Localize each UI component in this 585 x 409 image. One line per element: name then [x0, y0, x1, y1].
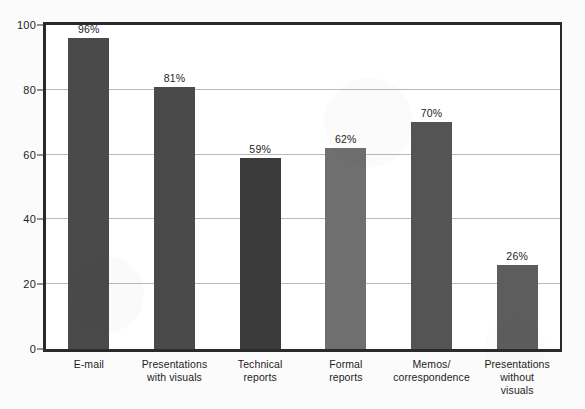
x-axis-label-line: reports	[298, 371, 394, 384]
x-axis-category-label: Memos/correspondence	[384, 358, 480, 384]
x-axis-label-line: Presentations	[469, 358, 565, 371]
y-axis-tick-mark	[37, 25, 43, 26]
y-axis-tick-label: 20	[0, 278, 36, 290]
bar: 81%	[154, 87, 195, 349]
y-axis-tick-label: 80	[0, 84, 36, 96]
x-axis-label-line: Presentations	[127, 358, 223, 371]
x-axis-category-label: Presentationswith visuals	[127, 358, 223, 384]
bar: 26%	[497, 265, 538, 349]
gridline	[46, 283, 560, 284]
bar-chart: 96%81%59%62%70%26% 020406080100 E-mailPr…	[0, 0, 585, 409]
bar: 59%	[240, 158, 281, 349]
y-axis-tick-label: 0	[0, 343, 36, 355]
x-axis-label-line: visuals	[469, 384, 565, 397]
x-axis-label-line: correspondence	[384, 371, 480, 384]
x-axis-label-line: Technical	[212, 358, 308, 371]
x-axis-label-line: without	[469, 371, 565, 384]
y-axis-tick-mark	[37, 154, 43, 155]
y-axis-tick-mark	[37, 349, 43, 350]
x-axis-category-label: Formalreports	[298, 358, 394, 384]
y-axis-tick-label: 60	[0, 149, 36, 161]
bar-value-label: 62%	[335, 133, 357, 145]
y-axis-tick-label: 100	[0, 19, 36, 31]
y-axis-tick-mark	[37, 219, 43, 220]
bar: 96%	[68, 38, 109, 349]
x-axis-label-line: E-mail	[41, 358, 137, 371]
x-axis-category-label: Presentationswithoutvisuals	[469, 358, 565, 397]
x-axis-label-line: reports	[212, 371, 308, 384]
y-axis-tick-mark	[37, 89, 43, 90]
y-axis-tick-label: 40	[0, 213, 36, 225]
gridline	[46, 89, 560, 90]
x-axis-category-label: Technicalreports	[212, 358, 308, 384]
plot-frame: 96%81%59%62%70%26%	[43, 22, 562, 352]
bar-value-label: 96%	[78, 23, 100, 35]
bar-value-label: 26%	[506, 250, 528, 262]
bar: 70%	[411, 122, 452, 349]
gridline	[46, 154, 560, 155]
x-axis-label-line: Formal	[298, 358, 394, 371]
bar: 62%	[325, 148, 366, 349]
x-axis-label-line: Memos/	[384, 358, 480, 371]
x-axis-label-line: with visuals	[127, 371, 223, 384]
plot-area: 96%81%59%62%70%26%	[46, 25, 560, 349]
gridline	[46, 218, 560, 219]
bar-value-label: 70%	[421, 107, 443, 119]
bar-value-label: 59%	[249, 143, 271, 155]
y-axis-tick-mark	[37, 284, 43, 285]
bar-value-label: 81%	[164, 72, 186, 84]
x-axis-category-label: E-mail	[41, 358, 137, 371]
